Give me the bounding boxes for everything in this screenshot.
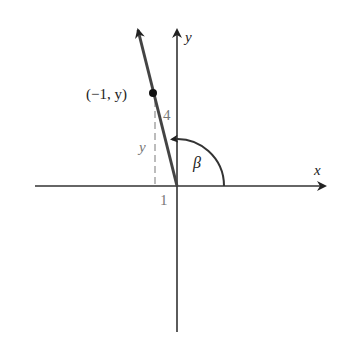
vertical-leg-label: y [137, 139, 146, 155]
hypotenuse-label: 4 [163, 107, 171, 123]
y-axis-label: y [183, 29, 192, 45]
trig-angle-diagram: y x (−1, y) 4 y 1 β [0, 0, 349, 341]
terminal-ray [138, 30, 177, 186]
horizontal-leg-label: 1 [160, 192, 168, 208]
x-axis-label: x [313, 162, 321, 178]
point-marker [149, 89, 157, 97]
point-label: (−1, y) [86, 86, 127, 103]
angle-label: β [192, 154, 201, 172]
